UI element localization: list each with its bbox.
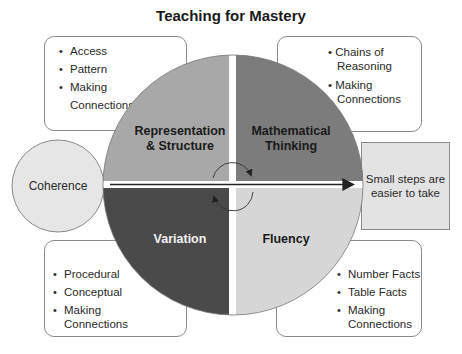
label-representation: Representation & Structure bbox=[125, 124, 235, 154]
label-fluency: Fluency bbox=[246, 232, 326, 247]
quadrant-fluency bbox=[233, 185, 368, 320]
quadrant-representation bbox=[100, 50, 233, 185]
label-coherence: Coherence bbox=[12, 179, 104, 193]
label-thinking: Mathematical Thinking bbox=[236, 124, 346, 154]
quadrant-variation bbox=[100, 185, 233, 320]
quadrant-thinking bbox=[233, 50, 368, 185]
mastery-wheel bbox=[0, 0, 462, 354]
label-variation: Variation bbox=[135, 232, 225, 247]
